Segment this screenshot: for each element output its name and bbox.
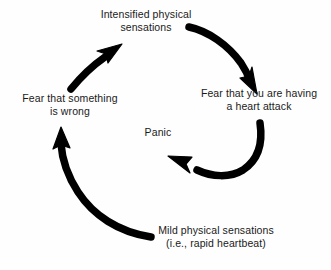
arrow-bottom-left (53, 127, 151, 237)
panic-cycle-diagram: Intensified physical sensations Fear tha… (0, 0, 331, 270)
node-label-line1: Intensified physical (100, 8, 192, 21)
node-label-fear-something-wrong: Fear that something is wrong (8, 92, 132, 118)
arrow-left-top (71, 44, 122, 89)
node-label-line2: sensations (100, 21, 192, 34)
node-label-mild-physical-sensations: Mild physical sensations (i.e., rapid he… (152, 224, 280, 250)
node-label-line2: a heart attack (190, 100, 328, 113)
node-label-line1: Fear that something (8, 92, 132, 105)
node-label-intensified-physical-sensations: Intensified physical sensations (100, 8, 192, 34)
center-label-panic: Panic (136, 126, 180, 139)
node-label-fear-heart-attack: Fear that you are having a heart attack (190, 87, 328, 113)
arrow-top-right (189, 27, 257, 94)
node-label-line1: Fear that you are having (190, 87, 328, 100)
arrow-right-inner (168, 123, 261, 176)
node-label-line2: (i.e., rapid heartbeat) (152, 237, 280, 250)
node-label-line1: Mild physical sensations (152, 224, 280, 237)
node-label-line2: is wrong (8, 105, 132, 118)
